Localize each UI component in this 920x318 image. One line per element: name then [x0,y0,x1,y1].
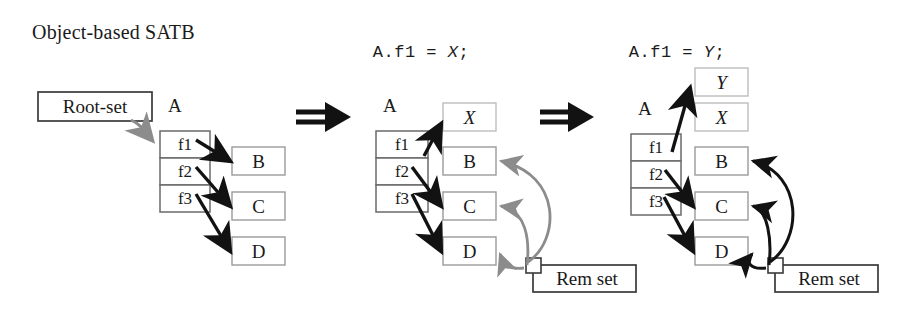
field-label-f2-3: f2 [631,161,681,188]
arrow-remset-to-b-2 [501,161,550,262]
field-label-f1-2: f1 [376,131,428,158]
heap-label-b-1: B [232,147,285,175]
heap-label-b-2: B [443,147,496,175]
heap-label-d-2: D [443,237,496,265]
object-a-label-2: A [383,96,397,115]
object-a-label-3: A [638,99,652,118]
arrow-remset-to-d-2 [500,254,524,268]
field-label-f1-1: f1 [160,131,210,158]
heap-label-b-3: B [695,147,748,175]
field-label-f2-2: f2 [376,158,428,185]
transition-arrow-1 [296,102,351,132]
transition-arrow-2 [540,102,594,132]
field-label-f2-1: f2 [160,158,210,185]
field-label-f3-3: f3 [631,188,681,215]
new-label-x-3: X [695,103,748,131]
field-label-f3-1: f3 [160,185,210,212]
new-label-x-2: X [443,103,496,131]
arrow-rootset-to-a [131,120,152,140]
field-label-f3-2: f3 [376,185,428,212]
arrow-remset-to-d-3 [749,254,766,268]
heap-label-d-3: D [695,237,748,265]
rem-set-label-3: Rem set [780,265,878,292]
heap-label-c-1: C [232,192,285,220]
arrow-remset-to-c-3 [753,206,770,265]
arrow-remset-to-b-3 [753,161,793,262]
rem-set-label-2: Rem set [538,265,636,292]
root-set-label: Root-set [38,92,152,121]
heap-label-c-2: C [443,192,496,220]
heap-label-c-3: C [695,192,748,220]
object-a-label-1: A [168,96,182,115]
heap-label-d-1: D [232,237,285,265]
field-label-f1-3: f1 [631,134,681,161]
new-label-y-3: Y [695,68,748,96]
diagram-canvas: Object-based SATB A.f1 = X; A.f1 = Y; [0,0,920,318]
arrow-remset-to-c-2 [501,206,528,265]
